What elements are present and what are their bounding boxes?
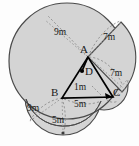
vertex-label-a: A	[80, 44, 88, 55]
dim-5m-bottom: 5m	[52, 116, 64, 126]
geometry-figure: A D B C 9m 7m 7m 1m 5m 9m 5m	[0, 0, 139, 146]
vertex-label-d: D	[85, 66, 93, 77]
dim-7m-right: 7m	[110, 69, 122, 79]
point-bottom-dot	[61, 131, 64, 134]
dim-9m-top-left: 9m	[54, 28, 66, 38]
dim-1m-center: 1m	[74, 83, 86, 93]
dim-7m-top-right: 7m	[103, 33, 115, 43]
dim-9m-left-low: 9m	[27, 104, 39, 114]
vertex-label-c: C	[113, 87, 120, 98]
point-d-dot	[80, 69, 84, 73]
dim-5m-right-low: 5m	[74, 100, 86, 110]
vertex-label-b: B	[51, 87, 58, 98]
